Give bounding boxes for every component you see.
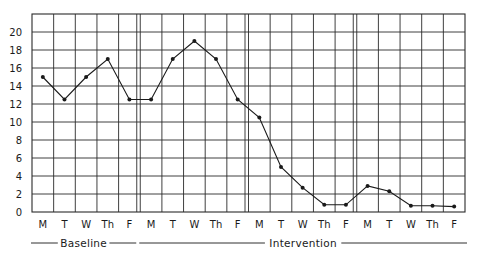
y-tick-label: 0 bbox=[16, 207, 22, 218]
x-day-label: F bbox=[235, 219, 241, 230]
data-point bbox=[106, 57, 110, 61]
data-point bbox=[257, 116, 261, 120]
y-tick-label: 8 bbox=[16, 135, 22, 146]
data-point bbox=[344, 203, 348, 207]
data-point bbox=[149, 98, 153, 102]
data-point bbox=[41, 75, 45, 79]
y-tick-label: 14 bbox=[9, 81, 22, 92]
x-day-label: M bbox=[255, 219, 264, 230]
y-tick-label: 2 bbox=[16, 189, 22, 200]
data-point bbox=[62, 98, 66, 102]
data-point bbox=[214, 57, 218, 61]
data-point bbox=[127, 98, 131, 102]
phase-label: Intervention bbox=[269, 237, 337, 249]
data-point bbox=[409, 204, 413, 208]
y-tick-label: 16 bbox=[9, 63, 22, 74]
x-day-label: F bbox=[451, 219, 457, 230]
x-axis-day-labels: MTWThFMTWThFMTWThFMTWThF bbox=[39, 219, 458, 230]
x-day-label: T bbox=[169, 219, 177, 230]
x-day-label: T bbox=[60, 219, 68, 230]
data-point bbox=[301, 186, 305, 190]
y-tick-label: 4 bbox=[16, 171, 22, 182]
data-point bbox=[192, 39, 196, 43]
phase-labels: BaselineIntervention bbox=[31, 237, 467, 249]
data-point bbox=[366, 184, 370, 188]
data-point bbox=[452, 205, 456, 209]
data-point bbox=[387, 189, 391, 193]
x-day-label: Th bbox=[101, 219, 114, 230]
x-day-label: T bbox=[385, 219, 393, 230]
chart-grid bbox=[32, 14, 465, 212]
phase-label: Baseline bbox=[60, 237, 107, 249]
x-day-label: F bbox=[127, 219, 133, 230]
y-tick-label: 10 bbox=[9, 117, 22, 128]
x-day-label: Th bbox=[425, 219, 438, 230]
data-point bbox=[236, 98, 240, 102]
y-tick-label: 18 bbox=[9, 45, 22, 56]
x-day-label: M bbox=[39, 219, 48, 230]
y-axis-ticks: 02468101214161820 bbox=[9, 27, 22, 218]
y-tick-label: 12 bbox=[9, 99, 22, 110]
x-day-label: Th bbox=[317, 219, 330, 230]
x-day-label: W bbox=[298, 219, 308, 230]
data-point bbox=[431, 204, 435, 208]
data-point bbox=[279, 165, 283, 169]
x-day-label: M bbox=[363, 219, 372, 230]
x-day-label: T bbox=[277, 219, 285, 230]
x-day-label: Th bbox=[209, 219, 222, 230]
x-day-label: W bbox=[81, 219, 91, 230]
x-day-label: W bbox=[189, 219, 199, 230]
data-point bbox=[84, 75, 88, 79]
y-tick-label: 6 bbox=[16, 153, 22, 164]
x-day-label: M bbox=[147, 219, 156, 230]
y-tick-label: 20 bbox=[9, 27, 22, 38]
x-day-label: F bbox=[343, 219, 349, 230]
x-day-label: W bbox=[406, 219, 416, 230]
line-chart: 02468101214161820 MTWThFMTWThFMTWThFMTWT… bbox=[0, 0, 483, 259]
data-point bbox=[171, 57, 175, 61]
data-point bbox=[322, 203, 326, 207]
